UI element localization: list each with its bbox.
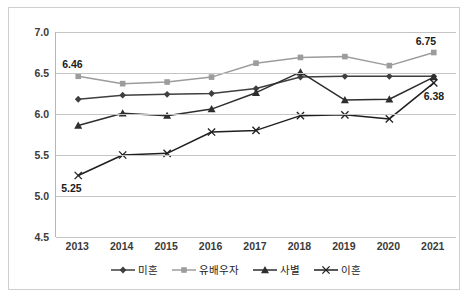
data-point-label: 6.46 [62,59,82,70]
legend-item-미혼[interactable]: 미혼 [110,264,158,276]
x-tick-label-2020: 2020 [377,241,400,252]
x-tick-label-2014: 2014 [110,241,133,252]
gridline-6.5 [56,73,456,74]
x-tick-label-2018: 2018 [288,241,311,252]
gridline-5.5 [56,155,456,156]
data-point-label: 6.75 [416,36,436,47]
y-tick-label: 4.5 [15,232,49,243]
chart-container: 7.06.56.05.55.04.5 201320142015201620172… [0,0,470,299]
y-axis-labels: 7.06.56.05.55.04.5 [11,0,49,299]
y-tick-label: 7.0 [15,27,49,38]
x-tick-label-2017: 2017 [243,241,266,252]
series-미혼 [75,73,437,103]
data-point-label: 6.38 [424,91,444,102]
x-tick-label-2021: 2021 [421,241,444,252]
legend-marker-square-icon [171,264,197,276]
legend-label: 사별 [280,265,300,276]
x-tick-label-2016: 2016 [199,241,222,252]
y-tick-label: 6.0 [15,109,49,120]
legend-item-이혼[interactable]: 이혼 [313,264,361,276]
legend-item-사별[interactable]: 사별 [252,264,300,276]
gridline-6.0 [56,114,456,115]
y-tick-label: 5.5 [15,150,49,161]
data-point-label: 5.25 [61,183,81,194]
y-tick-label: 6.5 [15,68,49,79]
legend-label: 미혼 [138,265,158,276]
x-tick-label-2015: 2015 [154,241,177,252]
plot-svg [56,32,456,237]
legend-label: 이혼 [341,265,361,276]
chart-legend: 미혼유배우자사별이혼 [0,264,470,276]
gridline-4.5 [56,237,456,238]
plot-area [55,32,455,237]
legend-item-유배우자[interactable]: 유배우자 [171,264,239,276]
gridline-7.0 [56,32,456,33]
x-tick-label-2013: 2013 [66,241,89,252]
legend-marker-triangle-icon [252,264,278,276]
series-유배우자 [75,50,436,87]
legend-marker-diamond-icon [110,264,136,276]
legend-label: 유배우자 [199,265,239,276]
series-사별 [74,68,438,128]
gridline-5.0 [56,196,456,197]
x-axis-labels: 201320142015201620172018201920202021 [55,241,455,257]
x-tick-label-2019: 2019 [332,241,355,252]
legend-marker-x-icon [313,264,339,276]
y-tick-label: 5.0 [15,191,49,202]
